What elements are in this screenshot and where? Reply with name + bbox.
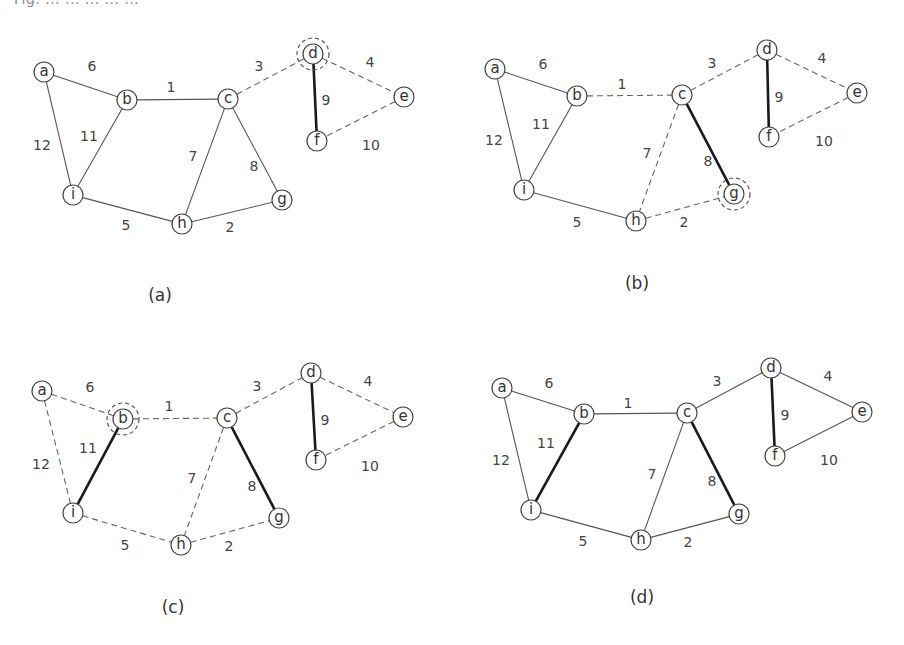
edge-weight-a-i: 12 bbox=[33, 137, 51, 153]
node-h: h bbox=[171, 535, 191, 555]
node-label: g bbox=[729, 184, 739, 202]
node-c: c bbox=[217, 408, 237, 428]
edge-c-g bbox=[692, 422, 735, 505]
node-label: e bbox=[852, 83, 861, 101]
edge-weight-c-h: 7 bbox=[189, 148, 198, 164]
edges: 613491012117852 bbox=[32, 373, 394, 554]
edge-weight-d-f: 9 bbox=[775, 89, 784, 105]
node-a: a bbox=[492, 378, 512, 398]
edge-weight-a-i: 12 bbox=[492, 452, 510, 468]
edge-c-g bbox=[687, 104, 730, 185]
edge-weight-a-i: 12 bbox=[32, 456, 50, 472]
edge-a-b bbox=[52, 394, 114, 415]
node-i: i bbox=[63, 185, 83, 205]
edge-d-e bbox=[780, 372, 853, 407]
node-e: e bbox=[394, 87, 414, 107]
edge-weight-b-i: 11 bbox=[537, 435, 555, 451]
node-a: a bbox=[485, 59, 505, 79]
node-label: a bbox=[39, 62, 48, 80]
edge-d-e bbox=[320, 377, 394, 412]
edge-weight-h-g: 2 bbox=[684, 534, 693, 550]
node-b: b bbox=[574, 404, 594, 424]
node-f: f bbox=[306, 450, 326, 470]
edge-a-i bbox=[504, 398, 528, 501]
panel-d: 613491012117852abcdefghi(d) bbox=[492, 358, 872, 607]
edge-c-d bbox=[696, 373, 762, 409]
node-i: i bbox=[521, 500, 541, 520]
node-label: c bbox=[223, 408, 231, 426]
node-e: e bbox=[393, 407, 413, 427]
edge-b-c bbox=[137, 99, 218, 100]
edge-weight-b-i: 11 bbox=[79, 440, 97, 456]
node-label: a bbox=[490, 59, 499, 77]
edge-b-c bbox=[594, 413, 677, 414]
node-h: h bbox=[631, 530, 651, 550]
edge-c-g bbox=[232, 427, 275, 509]
panel-b: 613491012117852abcdefghi(b) bbox=[485, 40, 867, 293]
node-label: a bbox=[37, 381, 46, 399]
node-d: d bbox=[301, 363, 321, 383]
node-label: f bbox=[313, 450, 319, 468]
node-label: c bbox=[224, 89, 232, 107]
node-label: h bbox=[631, 211, 641, 229]
edge-weight-c-h: 7 bbox=[648, 466, 657, 482]
node-label: b bbox=[118, 409, 128, 427]
edge-b-c bbox=[587, 95, 672, 96]
edge-weight-i-h: 5 bbox=[579, 533, 588, 549]
edge-weight-i-h: 5 bbox=[122, 217, 131, 233]
edge-d-e bbox=[776, 54, 848, 88]
edge-b-c bbox=[133, 418, 217, 419]
node-label: i bbox=[71, 503, 75, 521]
node-c: c bbox=[677, 403, 697, 423]
edge-weight-d-e: 4 bbox=[364, 373, 373, 389]
edge-e-f bbox=[325, 421, 394, 455]
edge-d-f bbox=[767, 60, 769, 127]
node-label: c bbox=[678, 85, 686, 103]
node-label: d bbox=[308, 44, 318, 62]
edge-weight-a-b: 6 bbox=[545, 375, 554, 391]
node-i: i bbox=[63, 503, 83, 523]
edge-weight-c-g: 8 bbox=[708, 473, 717, 489]
edge-weight-c-d: 3 bbox=[255, 58, 264, 74]
edge-weight-i-h: 5 bbox=[573, 214, 582, 230]
edge-weight-h-g: 2 bbox=[226, 219, 235, 235]
edge-weight-d-f: 9 bbox=[321, 412, 330, 428]
edge-weight-a-b: 6 bbox=[86, 379, 95, 395]
edges: 613491012117852 bbox=[485, 50, 848, 230]
panel-c: 613491012117852abcdefghi(c) bbox=[32, 363, 413, 617]
edge-weight-h-g: 2 bbox=[225, 538, 234, 554]
graph-figure: 613491012117852abcdefghi(a)6134910121178… bbox=[0, 0, 904, 645]
node-label: e bbox=[857, 402, 866, 420]
node-label: d bbox=[766, 358, 776, 376]
node-label: d bbox=[306, 363, 316, 381]
edge-weight-a-b: 6 bbox=[539, 56, 548, 72]
edge-weight-e-f: 10 bbox=[815, 133, 833, 149]
node-f: f bbox=[765, 446, 785, 466]
node-label: b bbox=[122, 90, 132, 108]
edge-weight-b-c: 1 bbox=[624, 395, 633, 411]
node-b: b bbox=[117, 90, 137, 110]
edge-weight-c-g: 8 bbox=[248, 478, 257, 494]
node-label: b bbox=[572, 86, 582, 104]
edge-weight-i-h: 5 bbox=[121, 537, 130, 553]
node-label: h bbox=[636, 530, 646, 548]
edge-weight-b-c: 1 bbox=[165, 398, 174, 414]
node-label: g bbox=[734, 504, 744, 522]
edge-weight-e-f: 10 bbox=[362, 137, 380, 153]
node-label: g bbox=[277, 190, 287, 208]
edge-weight-c-g: 8 bbox=[704, 153, 713, 169]
node-label: b bbox=[579, 404, 589, 422]
edge-weight-c-h: 7 bbox=[643, 145, 652, 161]
node-g: g bbox=[272, 190, 292, 210]
edge-weight-c-d: 3 bbox=[708, 55, 717, 71]
edge-c-d bbox=[691, 55, 758, 91]
node-c: c bbox=[218, 89, 238, 109]
edge-d-f bbox=[314, 64, 317, 131]
edge-e-f bbox=[326, 102, 395, 137]
node-f: f bbox=[307, 131, 327, 151]
node-f: f bbox=[759, 127, 779, 147]
edge-weight-b-c: 1 bbox=[618, 76, 627, 92]
edge-weight-c-g: 8 bbox=[250, 158, 259, 174]
edge-weight-d-e: 4 bbox=[824, 368, 833, 384]
node-c: c bbox=[672, 85, 692, 105]
